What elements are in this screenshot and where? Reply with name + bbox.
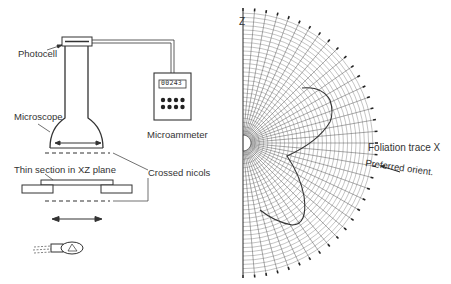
label-microammeter: Microammeter: [147, 130, 208, 140]
axis-label-z: Z: [239, 17, 245, 27]
thin-section: [41, 180, 113, 185]
wire: [92, 40, 174, 73]
microscope-apparatus: [22, 37, 174, 254]
lamp-icon: [33, 242, 83, 254]
microscope-icon: [50, 46, 103, 148]
label-foliation-trace: Foliation trace X: [368, 143, 440, 153]
label-photocell: Photocell: [18, 49, 57, 59]
stage-right: [101, 185, 132, 193]
meter-display: 00243: [161, 80, 182, 87]
label-microscope: Microscope: [14, 112, 63, 122]
stage-left: [22, 185, 53, 193]
label-thin-section: Thin section in XZ plane: [14, 165, 116, 175]
label-crossed-nicols: Crossed nicols: [148, 168, 210, 178]
